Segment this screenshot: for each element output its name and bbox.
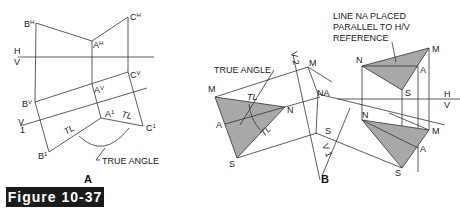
point-ch: CH [130, 12, 141, 22]
top-shaded-triangle [362, 48, 429, 90]
line-na-note-1: LINE NA PLACED [333, 11, 407, 21]
tl-label-ac: TL [121, 109, 133, 121]
left-point-m: M [208, 84, 216, 94]
left-point-a: A [216, 120, 222, 130]
point-bv: BV [22, 99, 32, 109]
ref-v-label: V [14, 57, 20, 67]
true-angle-label: TRUE ANGLE [102, 156, 159, 166]
point-ah: AH [93, 40, 103, 50]
ref-v-label-b: V [444, 100, 450, 110]
point-b1: B1 [38, 151, 48, 161]
true-angle-label-b: TRUE ANGLE [214, 65, 271, 75]
true-angle-arc [79, 128, 129, 146]
bottom-shaded-triangle [362, 120, 429, 168]
line-na-note-3: REFERENCE [333, 33, 389, 43]
aux-projector-b [35, 102, 49, 152]
point-av: AV [94, 85, 104, 95]
line-na-note-2: PARALLEL TO H/V [333, 22, 410, 32]
point-c1: C1 [146, 123, 157, 133]
caption-a: A [84, 173, 92, 185]
v1-reference-line-b [322, 108, 350, 176]
point-a1: A1 [105, 109, 115, 119]
v2-reference-line [293, 55, 320, 180]
ref-v2-label: V 2 [289, 51, 301, 66]
figure-label: Figure 10-37 [6, 187, 104, 207]
left-point-s: S [229, 159, 235, 169]
left-shaded-triangle [215, 97, 285, 158]
left-point-n: N [287, 105, 294, 115]
point-bh: BH [24, 19, 34, 29]
tl-label-top: TL [247, 92, 258, 102]
mid-point-m: M [309, 58, 317, 68]
panel-b: M A N S TL TL TRUE ANGLE M NA S V 2 V 1 … [208, 11, 460, 185]
top-point-a: A [420, 65, 426, 75]
top-point-m: M [432, 44, 440, 54]
bottom-point-s: S [395, 168, 401, 178]
mid-point-s: S [325, 126, 331, 136]
bottom-point-n: N [362, 110, 369, 120]
horizontal-view-lines [36, 17, 128, 41]
figure-diagram: BH AH CH H V CV AV BV A1 V 1 C1 B1 TL TL… [0, 0, 460, 214]
point-cv: CV [130, 70, 141, 80]
bottom-point-m: M [432, 126, 440, 136]
bottom-point-a: A [420, 144, 426, 154]
ref-h-label: H [14, 46, 21, 56]
ref-1-label: 1 [20, 125, 25, 135]
aux-view-lines [49, 118, 143, 152]
mid-point-na: NA [317, 88, 330, 98]
tl-label-ab: TL [62, 123, 76, 137]
projector-b [35, 23, 36, 102]
ref-v1-label: V 1 [320, 142, 334, 158]
caption-b: B [321, 173, 329, 185]
panel-a: BH AH CH H V CV AV BV A1 V 1 C1 B1 TL TL… [14, 12, 159, 185]
ref-h-label-b: H [444, 89, 451, 99]
top-point-s: S [405, 88, 411, 98]
top-point-n: N [356, 55, 363, 65]
projector-m-right [308, 67, 332, 82]
